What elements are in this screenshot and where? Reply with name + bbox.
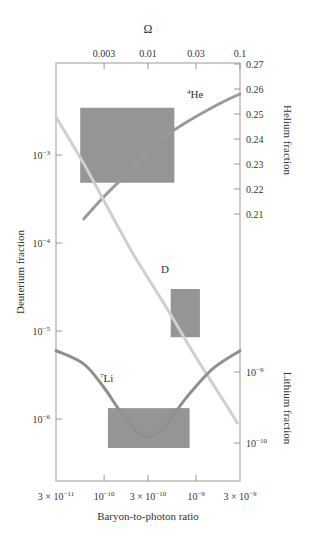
x-tick-label: 3 × 10−11 — [38, 490, 75, 502]
label-deuterium: D — [161, 263, 169, 275]
top-tick-label: 0.1 — [234, 48, 247, 59]
top-axis-title: Ω — [144, 22, 153, 36]
lithium-tick-label: 10−10 — [246, 437, 267, 449]
helium-tick-label: 0.23 — [246, 159, 264, 170]
left-tick-label: 10−5 — [33, 325, 51, 337]
x-tick-label: 10−10 — [94, 490, 115, 502]
top-tick-label: 0.01 — [139, 48, 157, 59]
top-tick-label: 0.03 — [187, 48, 205, 59]
lithium-axis-title: Lithium fraction — [282, 372, 294, 445]
label-li7: 7Li — [100, 372, 113, 384]
x-tick-label: 3 × 10−9 — [223, 490, 257, 502]
top-tick-label: 0.003 — [93, 48, 116, 59]
lithium-tick-label: 10−9 — [246, 366, 264, 378]
helium-tick-label: 0.24 — [246, 134, 264, 145]
x-tick-label: 3 × 10−10 — [130, 490, 167, 502]
bbn-abundance-chart: 4HeD7Li3 × 10−1110−103 × 10−1010−93 × 10… — [0, 0, 315, 545]
helium-tick-label: 0.25 — [246, 109, 264, 120]
helium-tick-label: 0.27 — [246, 59, 264, 70]
x-axis-title: Baryon-to-photon ratio — [97, 510, 199, 522]
x-tick-label: 10−9 — [187, 490, 205, 502]
deuterium-box — [171, 289, 200, 337]
left-tick-label: 10−6 — [33, 413, 51, 425]
left-axis-title: Deuterium fraction — [14, 230, 26, 314]
lithium-box — [108, 408, 190, 448]
helium-tick-label: 0.22 — [246, 184, 264, 195]
label-he4: 4He — [187, 88, 203, 100]
left-tick-label: 10−4 — [33, 237, 51, 249]
left-tick-label: 10−3 — [33, 149, 51, 161]
helium-tick-label: 0.26 — [246, 84, 264, 95]
helium-tick-label: 0.21 — [246, 209, 264, 220]
helium-axis-title: Helium fraction — [282, 105, 294, 175]
